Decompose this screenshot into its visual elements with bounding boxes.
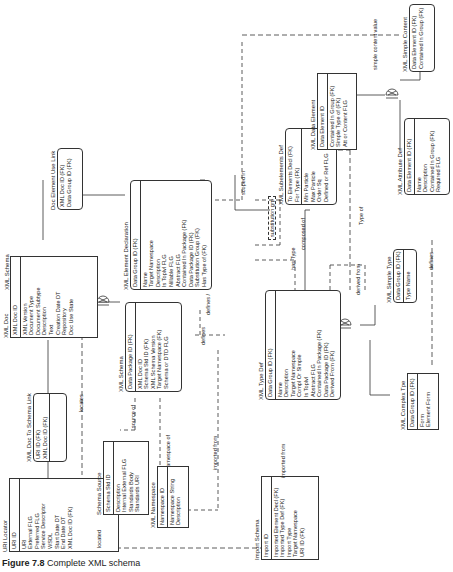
rel-simple-content-value: simple content value <box>372 19 378 70</box>
rel-source-of: source of <box>130 405 136 428</box>
entity-xml-doc-to-schema-link[interactable]: XML Doc To Schema Link URI ID (FK)XML Do… <box>26 393 67 462</box>
entity-xml-attribute-def[interactable]: XML Attribute Def Data Element ID (FK) N… <box>397 118 450 195</box>
rel-namespace-of: namespace of <box>165 435 171 470</box>
rel-located: located <box>96 530 102 548</box>
rel-defines-3: defines <box>428 252 434 270</box>
entity-xml-type-def[interactable]: XML Type Def Data Group ID (FK) Name Des… <box>258 290 341 400</box>
rel-scoped-in: scoped in <box>240 171 246 195</box>
entity-schema-source[interactable]: Schema Source Schema Std ID Description … <box>96 441 149 515</box>
rel-imported-from-2: imported from <box>280 443 286 478</box>
entity-doc-element-use-link[interactable]: Doc Element Use Link XML Doc ID (FK)Data… <box>50 148 83 210</box>
rel-derived-from: derived from <box>355 264 361 295</box>
rel-defines-2: defines / <box>205 294 211 315</box>
entity-xml-simple-type[interactable]: XML Simple Type Data Group ID (FK) Type … <box>386 249 417 303</box>
entity-xml-schema[interactable]: XML Schema Data Package ID (FK) XML Doc … <box>118 302 182 392</box>
entity-xml-element-declaration[interactable]: XML Element Declaration Data Group ID (F… <box>123 180 212 290</box>
entity-import-schema[interactable]: Import Schema Import ID Imported Element… <box>254 476 319 560</box>
entity-xml-data-element[interactable]: XML Data Element Data Element ID Contain… <box>310 73 357 150</box>
rel-has-type: has Type <box>290 247 296 270</box>
figure-caption: Figure 7.8 Complete XML schema <box>2 558 140 568</box>
rel-locates: locates <box>78 394 84 412</box>
rel-composed-of: composed of <box>300 218 306 250</box>
entity-xml-complex-type[interactable]: XML Complex Tpe Data Group ID (FK) Form … <box>400 373 439 430</box>
rel-defines-1: defines <box>200 327 206 345</box>
entity-xml-doc[interactable]: XML Doc XML Doc ID XML Version Document … <box>3 256 98 338</box>
rel-type-of: Type of <box>358 207 364 225</box>
rel-substitution-grp: substitution grp <box>268 196 276 240</box>
subtype-symbol-doc <box>97 296 109 305</box>
entity-xml-namespace[interactable]: XML Namespace Namespace ID Namespace Str… <box>150 466 189 528</box>
entity-xml-simple-content[interactable]: XML Simple Content Data Element ID (FK)C… <box>402 4 435 72</box>
rel-imported-from-1: imported from <box>212 435 218 470</box>
